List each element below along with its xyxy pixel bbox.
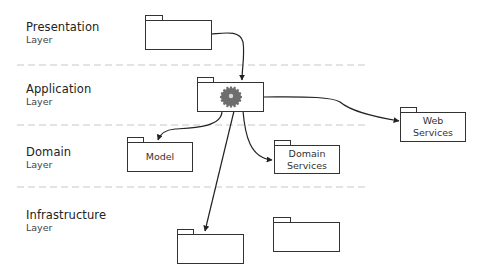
layer-name: Infrastructure <box>26 208 106 222</box>
package-label-line2: Services <box>413 127 453 139</box>
arrow-application-to-infrastructure <box>205 111 234 231</box>
package-body: Domain Services <box>274 145 340 174</box>
package-presentation <box>145 15 212 50</box>
package-label-line1: Web <box>423 115 444 127</box>
gear-icon <box>219 86 243 108</box>
layer-label-infrastructure: Infrastructure Layer <box>26 208 106 234</box>
package-infrastructure-2 <box>273 217 340 252</box>
package-model: Model <box>127 137 193 172</box>
layer-sub: Layer <box>26 96 91 108</box>
arrow-application-to-model <box>158 111 222 140</box>
package-web-services: Web Services <box>400 107 466 142</box>
layer-sub: Layer <box>26 159 71 171</box>
arrow-application-to-web-services <box>263 97 399 121</box>
layer-name: Application <box>26 82 91 96</box>
package-label-line2: Services <box>287 160 327 172</box>
package-body <box>145 20 212 50</box>
layer-name: Domain <box>26 145 71 159</box>
layer-name: Presentation <box>26 20 99 34</box>
package-body <box>273 222 340 252</box>
layer-label-presentation: Presentation Layer <box>26 20 99 46</box>
package-body <box>197 82 264 112</box>
package-body: Web Services <box>400 112 466 142</box>
arrow-presentation-to-application <box>211 33 244 80</box>
layer-sub: Layer <box>26 222 106 234</box>
package-label-line1: Domain <box>289 148 326 160</box>
arrow-application-to-domain-services <box>243 111 272 160</box>
layer-sub: Layer <box>26 34 99 46</box>
package-domain-services: Domain Services <box>274 140 340 174</box>
package-infrastructure-1 <box>177 229 244 264</box>
layer-label-application: Application Layer <box>26 82 91 108</box>
package-label: Model <box>127 142 193 172</box>
package-application <box>197 77 264 112</box>
layer-label-domain: Domain Layer <box>26 145 71 171</box>
package-body <box>177 234 244 264</box>
